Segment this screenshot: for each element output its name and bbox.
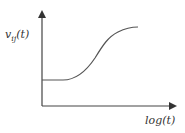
sigmoid-curve [42, 27, 138, 80]
x-axis-label: log(t) [145, 114, 175, 127]
y-axis-label: vij(t) [5, 28, 29, 43]
